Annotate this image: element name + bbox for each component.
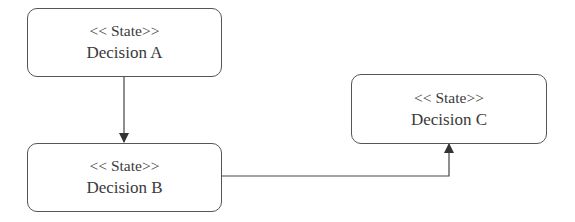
stereotype-label: << State>> [90,156,160,176]
transition-b-to-c [221,144,449,176]
stereotype-label: << State>> [90,21,160,41]
state-name: Decision C [411,108,487,131]
state-name: Decision A [86,41,162,64]
stereotype-label: << State>> [414,88,484,108]
state-decision-c[interactable]: << State>> Decision C [351,74,547,144]
state-decision-b[interactable]: << State>> Decision B [27,143,222,212]
state-decision-a[interactable]: << State>> Decision A [27,8,222,77]
state-name: Decision B [86,176,162,199]
